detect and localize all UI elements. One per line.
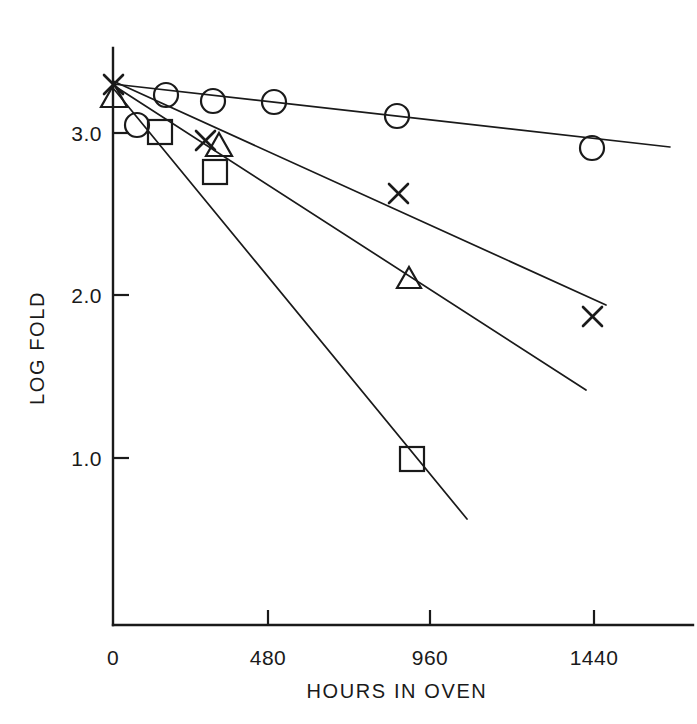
x-axis-title: HOURS IN OVEN (307, 680, 488, 702)
fit-line-x-series (113, 81, 606, 305)
series-square-markers (148, 120, 424, 471)
y-tick-label-2: 2.0 (71, 284, 102, 307)
fit-line-square-series (113, 88, 467, 519)
chart-figure: 3.0 2.0 1.0 0 480 960 1440 HOURS IN OVEN… (0, 0, 697, 724)
data-point-square (148, 120, 172, 144)
fit-line-triangle-series (113, 85, 586, 390)
series-x-markers (104, 75, 602, 326)
data-point-x (583, 307, 602, 326)
scatter-plot: 3.0 2.0 1.0 0 480 960 1440 HOURS IN OVEN… (0, 0, 697, 724)
series-triangle-markers (101, 84, 421, 288)
x-tick-label-960: 960 (412, 646, 449, 669)
y-axis-title: LOG FOLD (26, 291, 48, 405)
data-point-circle (201, 89, 225, 113)
data-point-circle (580, 136, 604, 160)
data-point-circle (154, 83, 178, 107)
data-point-square (400, 447, 424, 471)
x-tick-label-0: 0 (107, 646, 119, 669)
y-tick-label-3: 3.0 (71, 122, 102, 145)
y-axis-ticks (113, 133, 129, 458)
x-tick-label-1440: 1440 (570, 646, 619, 669)
y-tick-label-1: 1.0 (71, 447, 102, 470)
fit-lines-group (113, 81, 670, 519)
x-axis-ticks (268, 610, 594, 625)
data-point-square (203, 160, 227, 184)
data-point-x (389, 184, 408, 203)
x-tick-label-480: 480 (250, 646, 287, 669)
